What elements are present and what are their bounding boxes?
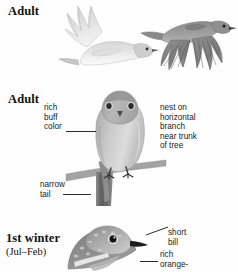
callout-rich-orange: rich orange- [160, 250, 188, 269]
callout-narrow-tail: narrow tail [40, 180, 65, 199]
leader-line-rich-buff-color [66, 131, 96, 132]
adult-in-flight-upperside-illustration [140, 4, 238, 84]
panel-heading-first-winter: 1st winter [6, 231, 60, 246]
callout-nest-on-horizontal-branch: nest on horizontal branch near trunk of … [160, 103, 197, 151]
panel-adult-flight: Adult [0, 0, 238, 86]
panel-heading-adult-flight: Adult [8, 4, 39, 19]
leader-line-rich-orange [140, 261, 158, 262]
panel-heading-adult-perched: Adult [8, 92, 39, 107]
panel-subheading-first-winter-months: (Jul–Feb) [6, 246, 46, 257]
callout-short-bill: short bill [168, 228, 186, 247]
callout-rich-buff-color: rich buff color [44, 103, 62, 132]
leader-line-short-bill [146, 225, 170, 237]
leader-line-narrow-tail [63, 194, 91, 195]
